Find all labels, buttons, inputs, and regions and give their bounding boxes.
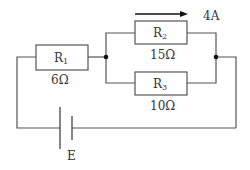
wire-right [216, 57, 236, 128]
r1-value: 6Ω [51, 73, 69, 87]
circuit-diagram: R1 6Ω R2 15Ω R3 10Ω 4A E [0, 0, 250, 170]
wire-right-branch [187, 33, 216, 83]
current-label: 4A [203, 9, 220, 23]
junction-left [104, 55, 109, 60]
wire-left-branch [106, 33, 135, 83]
r2-value: 15Ω [150, 48, 175, 62]
arrow-head-icon [180, 11, 188, 17]
battery-label: E [67, 149, 76, 163]
r3-value: 10Ω [150, 99, 175, 113]
junction-right [214, 55, 219, 60]
